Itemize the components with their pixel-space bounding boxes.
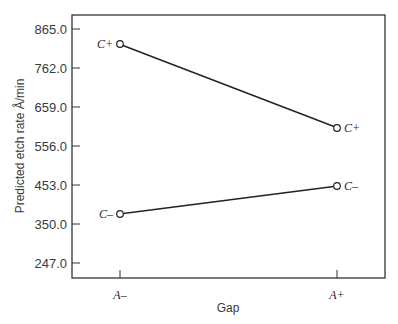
y-tick-label: 659.0 — [34, 100, 67, 115]
chart: 865.0 762.0 659.0 556.0 453.0 350.0 247.… — [0, 0, 398, 324]
data-point — [334, 183, 341, 190]
series-label: C+ — [344, 121, 360, 135]
x-tick-label: A+ — [328, 288, 344, 302]
y-axis — [72, 29, 80, 263]
data-point — [117, 41, 124, 48]
y-tick-label: 453.0 — [34, 178, 67, 193]
series-label: C+ — [97, 37, 113, 51]
plot-frame — [72, 15, 385, 278]
y-tick-label: 350.0 — [34, 217, 67, 232]
series-label: C– — [344, 179, 359, 193]
data-point — [334, 125, 341, 132]
y-tick-label: 762.0 — [34, 61, 67, 76]
x-tick-label: A– — [112, 288, 127, 302]
y-tick-label: 247.0 — [34, 256, 67, 271]
x-axis — [120, 270, 337, 278]
series-c-minus: C– C– — [99, 179, 359, 221]
y-axis-title: Predicted etch rate Å/min — [12, 79, 27, 214]
series-c-plus: C+ C+ — [97, 37, 360, 135]
x-axis-title: Gap — [217, 301, 240, 315]
y-tick-label: 556.0 — [34, 139, 67, 154]
series-label: C– — [99, 207, 114, 221]
data-point — [117, 211, 124, 218]
y-tick-label: 865.0 — [34, 22, 67, 37]
